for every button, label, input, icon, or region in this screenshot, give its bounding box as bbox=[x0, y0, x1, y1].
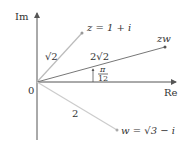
im-axis-label: Im bbox=[15, 11, 29, 22]
w-modulus-label: 2 bbox=[72, 108, 78, 119]
angle-numerator: π bbox=[99, 65, 106, 74]
z-point-label: z = 1 + i bbox=[86, 22, 131, 33]
vector-w bbox=[37, 82, 119, 132]
vector-z bbox=[37, 32, 84, 83]
zw-modulus-label: 2√2 bbox=[90, 51, 109, 62]
re-axis-label: Re bbox=[164, 87, 178, 98]
origin-label: 0 bbox=[28, 85, 34, 96]
z-modulus-label: √2 bbox=[45, 51, 58, 62]
zw-point-label: zw bbox=[156, 33, 171, 44]
angle-denominator: 12 bbox=[98, 74, 108, 83]
angle-label: π 12 bbox=[98, 65, 108, 83]
complex-plane-diagram: Im Re 0 z = 1 + i √2 zw 2√2 w = √3 − i 2… bbox=[0, 0, 184, 143]
w-point-label: w = √3 − i bbox=[121, 125, 175, 136]
